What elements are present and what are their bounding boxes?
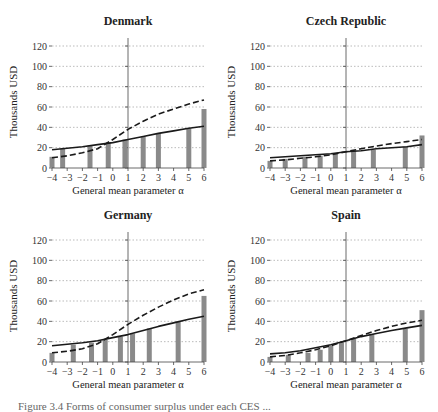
y-tick-label: 60 [255, 102, 265, 113]
x-tick-label: 4 [389, 172, 394, 183]
y-axis-label: Thousands USD [7, 47, 19, 157]
x-tick-label: −3 [280, 366, 291, 377]
plot-area: 020406080100120−4−3−2−10123456 [218, 194, 437, 389]
bar [318, 350, 323, 362]
x-tick-label: 4 [171, 366, 176, 377]
bar [88, 146, 93, 168]
bar [130, 334, 135, 362]
x-tick-label: 6 [202, 172, 207, 183]
x-tick-label: 0 [328, 366, 333, 377]
x-tick-label: 4 [171, 172, 176, 183]
bar [60, 149, 65, 168]
y-axis-label: Thousands USD [225, 241, 237, 351]
x-tick-label: 3 [156, 172, 161, 183]
x-tick-label: −4 [265, 172, 276, 183]
x-tick-label: 3 [374, 366, 379, 377]
bar [103, 340, 108, 362]
x-tick-label: 1 [344, 366, 349, 377]
bar [141, 136, 146, 168]
x-tick-label: 3 [374, 172, 379, 183]
x-tick-label: 5 [404, 366, 409, 377]
subplot-spain: 020406080100120−4−3−2−10123456 Spain Tho… [218, 194, 437, 389]
bar [420, 135, 425, 168]
bar [371, 150, 376, 168]
bar [302, 157, 307, 168]
y-axis-label: Thousands USD [7, 241, 19, 351]
x-axis-label: General mean parameter α [270, 379, 422, 390]
y-tick-label: 20 [255, 142, 265, 153]
bar [286, 355, 291, 362]
y-tick-label: 20 [37, 142, 47, 153]
y-tick-label: 60 [255, 296, 265, 307]
bar [369, 335, 374, 362]
y-tick-label: 20 [255, 336, 265, 347]
x-tick-label: 0 [110, 366, 115, 377]
bar [306, 353, 311, 362]
y-tick-label: 120 [250, 235, 265, 246]
plot-area: 020406080100120−4−3−2−10123456 [0, 0, 219, 195]
x-tick-label: 6 [420, 172, 425, 183]
x-tick-label: −1 [92, 172, 103, 183]
bar [156, 133, 161, 168]
y-tick-label: 20 [37, 336, 47, 347]
x-tick-label: −2 [295, 172, 306, 183]
y-tick-label: 40 [37, 316, 47, 327]
x-tick-label: 5 [186, 172, 191, 183]
x-tick-label: −3 [62, 366, 73, 377]
subplot-denmark: 020406080100120−4−3−2−10123456 Denmark T… [0, 0, 219, 195]
bar [420, 310, 425, 362]
x-tick-label: 3 [156, 366, 161, 377]
y-tick-label: 40 [255, 122, 265, 133]
y-tick-label: 120 [250, 41, 265, 52]
subplot-title: Denmark [52, 14, 204, 29]
x-tick-label: 1 [344, 172, 349, 183]
bar [186, 128, 191, 168]
bar [50, 157, 55, 168]
bar [71, 345, 76, 362]
x-tick-label: 6 [420, 366, 425, 377]
x-tick-label: −2 [77, 366, 88, 377]
x-tick-label: 2 [141, 366, 146, 377]
bar [328, 346, 333, 362]
subplot-czech-republic: 020406080100120−4−3−2−10123456 Czech Rep… [218, 0, 437, 195]
y-tick-label: 80 [37, 275, 47, 286]
bar [202, 109, 207, 168]
y-tick-label: 40 [37, 122, 47, 133]
y-tick-label: 100 [250, 61, 265, 72]
y-tick-label: 60 [37, 296, 47, 307]
x-tick-label: 2 [359, 172, 364, 183]
x-tick-label: −1 [92, 366, 103, 377]
bar [118, 337, 123, 362]
x-tick-label: 1 [126, 366, 131, 377]
bar [106, 143, 111, 168]
bar [147, 328, 152, 362]
y-tick-label: 100 [250, 255, 265, 266]
bar [50, 353, 55, 362]
bar [176, 321, 181, 362]
figure-caption: Figure 3.4 Forms of consumer surplus und… [18, 400, 271, 412]
plot-area: 020406080100120−4−3−2−10123456 [218, 0, 437, 195]
x-tick-label: −3 [280, 172, 291, 183]
x-tick-label: −4 [265, 366, 276, 377]
bar [403, 147, 408, 168]
x-tick-label: 5 [404, 172, 409, 183]
plot-area: 020406080100120−4−3−2−10123456 [0, 194, 219, 389]
bar [202, 296, 207, 362]
y-tick-label: 80 [37, 81, 47, 92]
bar [268, 161, 273, 168]
x-tick-label: 2 [359, 366, 364, 377]
x-tick-label: 1 [126, 172, 131, 183]
bar [333, 154, 338, 168]
x-tick-label: −2 [295, 366, 306, 377]
subplot-title: Spain [270, 208, 422, 223]
x-tick-label: 5 [186, 366, 191, 377]
y-tick-label: 60 [37, 102, 47, 113]
bar [351, 151, 356, 168]
x-tick-label: 6 [202, 366, 207, 377]
bar [268, 357, 273, 362]
subplot-title: Germany [52, 208, 204, 223]
subplot-germany: 020406080100120−4−3−2−10123456 Germany T… [0, 194, 219, 389]
y-tick-label: 80 [255, 275, 265, 286]
x-tick-label: −2 [77, 172, 88, 183]
bar [339, 343, 344, 362]
